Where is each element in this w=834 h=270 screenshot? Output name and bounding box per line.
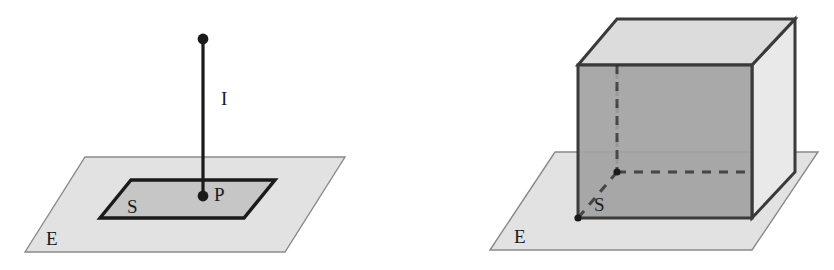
label-surface-s-right: S [594,194,605,215]
figure-root: I P S E S E [0,0,834,270]
label-surface-s-left: S [127,196,138,217]
label-plane-e-right: E [514,226,526,247]
hidden-corner-vertex-dot [613,168,620,175]
label-plane-e-left: E [46,228,58,249]
apex-point-dot [198,34,209,45]
cube-panel: S E [417,0,834,270]
cube-bottom-left-vertex-dot [574,214,581,221]
point-and-surface-panel: I P S E [0,0,417,270]
label-point-p: P [214,184,225,205]
label-line-i: I [221,88,227,109]
point-p-dot [198,191,209,202]
